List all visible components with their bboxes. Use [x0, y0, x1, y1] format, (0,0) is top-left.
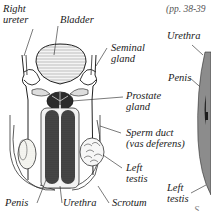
label-prostate-gland-line2: gland — [126, 101, 161, 112]
label-bladder: Bladder — [60, 14, 94, 25]
label-sperm-duct-line1: Sperm duct — [126, 127, 185, 138]
label-page-reference: (pp. 38-39 — [166, 4, 206, 15]
label-urethra: Urethra — [63, 197, 96, 208]
label-prostate-gland: Prostate gland — [126, 90, 161, 112]
label-left-testis-line2: testis — [126, 173, 148, 184]
label-right-ureter-line2: ureter — [3, 14, 28, 25]
right-testis — [18, 139, 36, 169]
label-prostate-gland-line1: Prostate — [126, 90, 161, 101]
corpus-right — [61, 110, 75, 184]
label-sperm-duct-line2: (vas deferens) — [126, 138, 185, 149]
label-seminal-gland-line1: Seminal — [111, 42, 145, 53]
left-testis — [80, 138, 104, 166]
label-side-urethra: Urethra — [167, 30, 200, 41]
corpus-left — [45, 110, 59, 184]
label-side-left-testis-line2: testis — [167, 193, 189, 204]
label-side-left-testis-line1: Left — [167, 182, 189, 193]
label-side-partial: S — [194, 204, 199, 211]
label-seminal-gland-line2: gland — [111, 53, 145, 64]
label-right-ureter-line1: Right — [3, 3, 28, 14]
label-scrotum: Scrotum — [112, 197, 147, 208]
label-sperm-duct: Sperm duct (vas deferens) — [126, 127, 185, 149]
label-right-ureter: Right ureter — [3, 3, 28, 25]
bladder — [36, 44, 86, 84]
label-penis: Penis — [5, 197, 28, 208]
seminal-gland-left — [32, 89, 50, 96]
side-external-view — [198, 52, 211, 195]
label-seminal-gland: Seminal gland — [111, 42, 145, 64]
label-left-testis: Left testis — [126, 162, 148, 184]
seminal-gland-right — [70, 89, 88, 96]
label-left-testis-line1: Left — [126, 162, 148, 173]
label-side-penis: Penis — [168, 72, 191, 83]
label-side-left-testis: Left testis — [167, 182, 189, 204]
